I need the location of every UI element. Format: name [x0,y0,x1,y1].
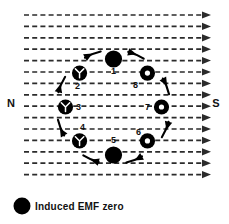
field-line-arrowhead [202,103,211,110]
north-pole-label: N [7,97,15,109]
current-out-of-page-dot-6 [145,138,150,143]
marker-disc-5 [105,146,122,163]
position-number-6: 6 [136,127,141,137]
field-line-arrowhead [202,80,211,87]
field-line-arrowhead [202,125,211,132]
coil-position-7 [154,99,169,114]
position-number-2: 2 [75,81,80,91]
legend-text: Induced EMF zero [35,201,124,212]
legend-marker-icon [14,198,31,215]
position-number-1: 1 [111,66,116,76]
field-line-arrowhead [202,68,211,75]
field-line-arrowhead [202,137,211,144]
field-line-arrowhead [202,148,211,155]
field-line-arrowhead [202,57,211,64]
current-out-of-page-dot-8 [145,70,150,75]
coil-position-5 [105,146,122,163]
field-line-arrowhead [202,34,211,41]
emf-rotating-coil-figure: 12345678 N S Induced EMF zero [0,0,229,224]
figure-canvas: 12345678 N S Induced EMF zero [0,0,229,224]
position-number-5: 5 [111,135,116,145]
field-line-arrowhead [202,46,211,53]
south-pole-label: S [212,97,219,109]
field-line-arrowhead [202,23,211,30]
coil-position-2 [72,65,87,80]
coil-position-6 [140,133,155,148]
field-line-arrowhead [202,160,211,167]
field-line-arrowhead [202,171,211,178]
field-line-arrowhead [202,11,211,18]
position-number-7: 7 [145,102,150,112]
coil-position-4 [72,133,87,148]
field-line-arrowhead [202,114,211,121]
field-line-arrowhead [202,91,211,98]
coil-position-8 [140,65,155,80]
position-number-8: 8 [133,80,138,90]
position-number-4: 4 [80,122,85,132]
current-out-of-page-dot-7 [159,104,164,109]
coil-position-3 [58,99,73,114]
position-number-3: 3 [76,102,81,112]
legend: Induced EMF zero [14,198,124,215]
